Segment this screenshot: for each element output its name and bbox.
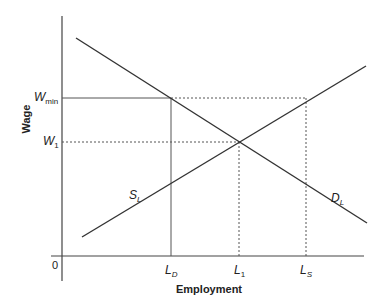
demand-label: DL — [331, 192, 344, 204]
supply-curve — [82, 66, 366, 237]
supply-label: SL — [129, 189, 141, 201]
x-axis-title: Employment — [176, 283, 242, 295]
y-axis-title: Wage — [20, 105, 32, 134]
w1-label: W1 — [43, 135, 59, 147]
ld-label: LD — [165, 264, 177, 276]
ls-label: LS — [300, 264, 312, 276]
origin-label: 0 — [52, 260, 58, 271]
demand-curve — [76, 38, 367, 223]
l1-label: L1 — [234, 264, 245, 276]
wmin-label: Wmin — [34, 91, 58, 103]
